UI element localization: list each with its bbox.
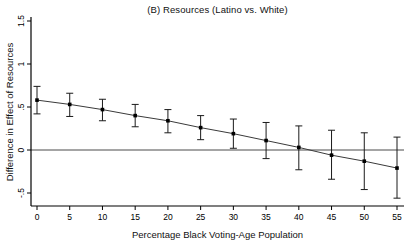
plot-area: -.50.511.50510152025303540455055 (0, 0, 411, 247)
chart-figure: (B) Resources (Latino vs. White) Differe… (0, 0, 411, 247)
y-tick-label: -.5 (16, 188, 26, 198)
data-point-marker (297, 146, 301, 150)
data-point-marker (264, 139, 268, 143)
data-point-marker (35, 98, 39, 102)
x-tick-label: 50 (360, 212, 370, 222)
x-tick-label: 20 (163, 212, 173, 222)
data-point-marker (330, 153, 334, 157)
x-tick-label: 35 (261, 212, 271, 222)
data-point-marker (166, 119, 170, 123)
x-tick-label: 25 (196, 212, 206, 222)
x-tick-label: 40 (294, 212, 304, 222)
x-tick-label: 30 (229, 212, 239, 222)
x-tick-label: 10 (98, 212, 108, 222)
x-tick-label: 0 (35, 212, 40, 222)
y-tick-label: 1.5 (16, 15, 26, 27)
y-tick-label: .5 (16, 103, 26, 110)
x-tick-label: 55 (392, 212, 402, 222)
data-point-marker (101, 108, 105, 112)
y-tick-label: 0 (16, 147, 26, 152)
x-tick-label: 5 (67, 212, 72, 222)
data-point-marker (199, 126, 203, 130)
x-axis-label: Percentage Black Voting-Age Population (31, 229, 404, 240)
data-point-marker (232, 132, 236, 136)
data-point-marker (133, 114, 137, 118)
x-tick-label: 45 (327, 212, 337, 222)
trend-line (37, 100, 397, 168)
x-tick-label: 15 (130, 212, 140, 222)
y-tick-label: 1 (16, 61, 26, 66)
data-point-marker (395, 166, 399, 170)
data-point-marker (68, 103, 72, 107)
data-point-marker (362, 159, 366, 163)
